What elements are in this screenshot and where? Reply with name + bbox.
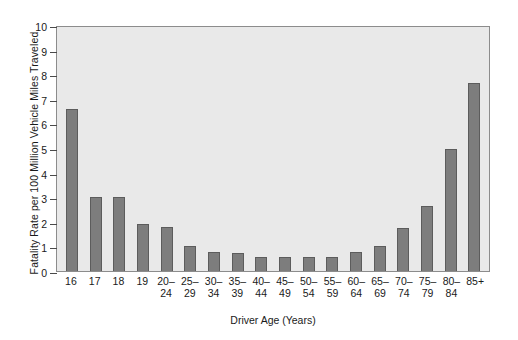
y-tick-label: 5 — [41, 144, 47, 156]
y-tick-mark — [50, 199, 57, 200]
y-tick-label: 8 — [41, 70, 47, 82]
bar-55–59 — [326, 257, 338, 271]
bar-17 — [90, 197, 102, 271]
x-tick-label-19: 19 — [130, 276, 154, 308]
bar-slot — [226, 27, 250, 271]
y-tick-label: 2 — [41, 218, 47, 230]
bar-slot — [155, 27, 179, 271]
x-tick-label-75–79: 75–79 — [416, 276, 440, 308]
bar-16 — [66, 109, 78, 271]
chart-figure: Fatality Rate per 100 Million Vehicle Mi… — [0, 0, 518, 340]
y-tick-mark — [50, 101, 57, 102]
plot-area: 012345678910 — [56, 26, 490, 272]
bar-75–79 — [421, 206, 433, 271]
bar-slot — [60, 27, 84, 271]
y-tick-label: 7 — [41, 95, 47, 107]
bar-65–69 — [374, 246, 386, 271]
y-tick-mark — [50, 76, 57, 77]
y-tick-mark — [50, 175, 57, 176]
y-tick-label: 1 — [41, 242, 47, 254]
x-tick-label-80–84: 80–84 — [440, 276, 464, 308]
bar-85+ — [468, 83, 480, 271]
bar-slot — [273, 27, 297, 271]
y-axis-title: Fatality Rate per 100 Million Vehicle Mi… — [28, 23, 40, 283]
bar-20–24 — [161, 227, 173, 271]
x-axis-title: Driver Age (Years) — [56, 314, 490, 326]
x-tick-label-60–64: 60–64 — [344, 276, 368, 308]
bar-slot — [107, 27, 131, 271]
x-tick-label-45–49: 45–49 — [273, 276, 297, 308]
bar-25–29 — [184, 246, 196, 271]
bar-35–39 — [232, 253, 244, 271]
x-tick-label-17: 17 — [83, 276, 107, 308]
x-tick-label-35–39: 35–39 — [225, 276, 249, 308]
bar-80–84 — [445, 149, 457, 271]
bar-slot — [439, 27, 463, 271]
y-tick-label: 9 — [41, 46, 47, 58]
x-tick-label-20–24: 20–24 — [154, 276, 178, 308]
bar-50–54 — [303, 257, 315, 271]
bar-slot — [131, 27, 155, 271]
x-tick-label-40–44: 40–44 — [249, 276, 273, 308]
bar-70–74 — [397, 228, 409, 271]
x-tick-label-65–69: 65–69 — [368, 276, 392, 308]
bar-slot — [344, 27, 368, 271]
y-tick-mark — [50, 150, 57, 151]
bar-19 — [137, 224, 149, 271]
x-tick-label-30–34: 30–34 — [202, 276, 226, 308]
x-tick-label-16: 16 — [59, 276, 83, 308]
bar-slot — [249, 27, 273, 271]
x-axis-tick-labels: 1617181920–2425–2930–3435–3940–4445–4950… — [56, 276, 490, 308]
x-tick-label-25–29: 25–29 — [178, 276, 202, 308]
x-tick-label-55–59: 55–59 — [321, 276, 345, 308]
bar-30–34 — [208, 252, 220, 271]
bar-slot — [415, 27, 439, 271]
y-tick-mark — [50, 273, 57, 274]
bar-slot — [297, 27, 321, 271]
x-tick-label-85+: 85+ — [463, 276, 487, 308]
bar-slot — [320, 27, 344, 271]
bar-slot — [391, 27, 415, 271]
bar-slot — [368, 27, 392, 271]
y-tick-label: 4 — [41, 169, 47, 181]
y-tick-mark — [50, 248, 57, 249]
bar-40–44 — [255, 257, 267, 271]
y-tick-mark — [50, 224, 57, 225]
bar-18 — [113, 197, 125, 271]
y-tick-mark — [50, 125, 57, 126]
y-tick-mark — [50, 52, 57, 53]
bar-slot — [462, 27, 486, 271]
bar-slot — [178, 27, 202, 271]
y-tick-mark — [50, 27, 57, 28]
bar-slot — [84, 27, 108, 271]
bar-60–64 — [350, 252, 362, 271]
x-tick-label-70–74: 70–74 — [392, 276, 416, 308]
y-tick-label: 3 — [41, 193, 47, 205]
y-tick-label: 0 — [41, 267, 47, 279]
x-tick-label-18: 18 — [107, 276, 131, 308]
bar-slot — [202, 27, 226, 271]
y-tick-label: 6 — [41, 119, 47, 131]
bar-series — [57, 27, 489, 271]
bar-45–49 — [279, 257, 291, 271]
x-tick-label-50–54: 50–54 — [297, 276, 321, 308]
y-tick-label: 10 — [35, 21, 47, 33]
